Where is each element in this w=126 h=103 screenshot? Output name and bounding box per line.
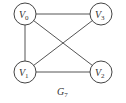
node-v2: V2: [90, 61, 112, 83]
node-v1: V1: [14, 61, 36, 83]
node-v0: V0: [14, 3, 36, 25]
node-v3: V3: [90, 3, 112, 25]
graph-caption: G7: [57, 86, 68, 99]
graph-diagram: V0 V3 V1 V2 G7: [0, 0, 126, 103]
edges: [25, 14, 101, 72]
